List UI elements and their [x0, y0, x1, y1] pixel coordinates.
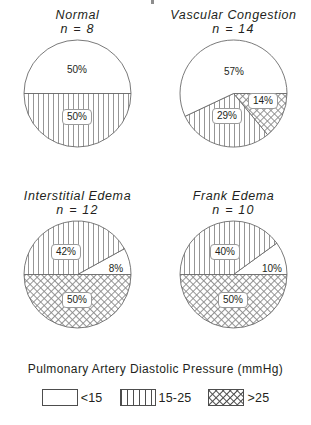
pie-frank-edema: 40% 10% 50%: [179, 220, 288, 329]
pie-panel-vascular-congestion: Vascular Congestion n = 14 57% 29% 14%: [156, 8, 311, 184]
pie-svg-normal: [23, 39, 132, 148]
slice-label-gt25: 50%: [218, 292, 248, 308]
slice-label-lt15: 8%: [109, 263, 123, 274]
cropped-text-artifact: [151, 0, 154, 4]
legend-item-15-25: 15-25: [120, 389, 192, 406]
panel-title: Frank Edema: [156, 189, 311, 203]
slice-label-lt15: 57%: [224, 66, 244, 77]
legend-item-gt25: >25: [208, 389, 269, 406]
legend-item-lt15: <15: [42, 389, 103, 406]
slice-label-gt25: 14%: [248, 93, 278, 109]
panel-subtitle: n = 14: [156, 22, 311, 36]
swatch-blank-icon: [42, 389, 78, 406]
legend-label-15-25: 15-25: [159, 391, 192, 405]
panel-title: Interstitial Edema: [0, 189, 155, 203]
pie-normal: 50% 50%: [23, 39, 132, 148]
legend-label-gt25: >25: [247, 391, 269, 405]
slice-label-15-25: 29%: [212, 108, 242, 124]
slice-label-15-25: 50%: [62, 109, 92, 125]
slice-label-15-25: 42%: [51, 244, 81, 260]
pie-svg-interstitial-edema: [23, 220, 132, 329]
slice-label-lt15: 50%: [67, 64, 87, 75]
panel-title: Vascular Congestion: [156, 8, 311, 22]
legend-items: <15 15-25 >25: [0, 389, 311, 406]
legend-title: Pulmonary Artery Diastolic Pressure (mmH…: [0, 362, 311, 376]
slice-label-gt25: 50%: [62, 292, 92, 308]
figure-root: Normal n = 8 50% 50% Vascular Congestion…: [0, 0, 311, 425]
panel-subtitle: n = 10: [156, 203, 311, 217]
panel-title: Normal: [0, 8, 155, 22]
pie-panel-frank-edema: Frank Edema n = 10 40% 10% 50%: [156, 189, 311, 365]
pie-panel-interstitial-edema: Interstitial Edema n = 12 42% 8% 50%: [0, 189, 155, 365]
panel-subtitle: n = 12: [0, 203, 155, 217]
legend: Pulmonary Artery Diastolic Pressure (mmH…: [0, 362, 311, 406]
pie-panel-normal: Normal n = 8 50% 50%: [0, 8, 155, 184]
pie-svg-frank-edema: [179, 220, 288, 329]
pie-chart-grid: Normal n = 8 50% 50% Vascular Congestion…: [0, 8, 311, 360]
pie-vascular-congestion: 57% 29% 14%: [179, 39, 288, 148]
legend-label-lt15: <15: [81, 391, 103, 405]
slice-label-lt15: 10%: [262, 263, 282, 274]
panel-subtitle: n = 8: [0, 22, 155, 36]
slice-label-15-25: 40%: [210, 244, 240, 260]
swatch-vertical-hatch-icon: [120, 389, 156, 406]
pie-interstitial-edema: 42% 8% 50%: [23, 220, 132, 329]
swatch-cross-hatch-icon: [208, 389, 244, 406]
